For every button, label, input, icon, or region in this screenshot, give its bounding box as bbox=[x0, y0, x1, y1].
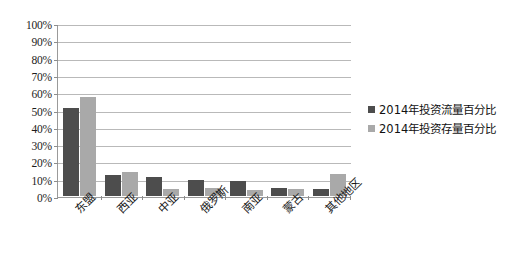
bar bbox=[146, 177, 162, 196]
legend-item-label: 2014年投资流量百分比 bbox=[379, 101, 496, 117]
x-axis-label-cell: 蒙古 bbox=[267, 199, 309, 255]
bar-series-container bbox=[59, 25, 350, 196]
y-axis-tick bbox=[54, 60, 58, 61]
legend-item: 2014年投资流量百分比 bbox=[368, 101, 496, 117]
plot-area: 0%10%20%30%40%50%60%70%80%90%100% bbox=[57, 25, 350, 198]
y-axis-tick-label: 20% bbox=[32, 157, 52, 169]
bar-group bbox=[101, 25, 143, 196]
bar bbox=[105, 175, 121, 196]
y-axis-tick-label: 80% bbox=[32, 54, 52, 66]
y-axis-tick bbox=[54, 181, 58, 182]
bar-group bbox=[267, 25, 309, 196]
y-axis-tick-label: 0% bbox=[37, 192, 52, 204]
bar-group bbox=[225, 25, 267, 196]
y-axis-tick bbox=[54, 77, 58, 78]
x-axis-label-cell: 其他地区 bbox=[308, 199, 350, 255]
y-axis-tick bbox=[54, 42, 58, 43]
x-axis-label-cell: 东盟 bbox=[58, 199, 100, 255]
bar bbox=[80, 97, 96, 196]
x-axis-labels: 东盟西亚中亚俄罗斯南亚蒙古其他地区 bbox=[58, 199, 350, 255]
y-axis-tick-label: 100% bbox=[26, 19, 52, 31]
y-axis-tick-label: 10% bbox=[32, 175, 52, 187]
y-axis-tick-label: 90% bbox=[32, 36, 52, 48]
legend-swatch-icon bbox=[368, 125, 375, 132]
x-axis-label-cell: 南亚 bbox=[225, 199, 267, 255]
bar-group bbox=[184, 25, 226, 196]
y-axis-tick-label: 70% bbox=[32, 71, 52, 83]
y-axis-tick-label: 60% bbox=[32, 88, 52, 100]
y-axis-tick bbox=[54, 129, 58, 130]
bar bbox=[230, 181, 246, 196]
bar-group bbox=[308, 25, 350, 196]
y-axis-tick-label: 30% bbox=[32, 140, 52, 152]
y-axis-tick bbox=[54, 25, 58, 26]
x-axis-label-cell: 中亚 bbox=[141, 199, 183, 255]
y-axis-tick bbox=[54, 146, 58, 147]
bar bbox=[188, 180, 204, 196]
bar-group bbox=[142, 25, 184, 196]
bar bbox=[63, 108, 79, 196]
legend-item-label: 2014年投资存量百分比 bbox=[379, 120, 496, 136]
chart-screenshot: 0%10%20%30%40%50%60%70%80%90%100% 东盟西亚中亚… bbox=[0, 0, 515, 257]
y-axis-tick bbox=[54, 163, 58, 164]
y-axis-tick bbox=[54, 112, 58, 113]
y-axis-tick-label: 40% bbox=[32, 123, 52, 135]
y-axis-tick bbox=[54, 94, 58, 95]
y-axis-tick-label: 50% bbox=[32, 106, 52, 118]
legend-swatch-icon bbox=[368, 106, 375, 113]
chart-legend: 2014年投资流量百分比2014年投资存量百分比 bbox=[368, 101, 496, 136]
x-axis-label-cell: 西亚 bbox=[100, 199, 142, 255]
bar bbox=[271, 188, 287, 196]
legend-item: 2014年投资存量百分比 bbox=[368, 120, 496, 136]
bar bbox=[313, 189, 329, 196]
bar-group bbox=[59, 25, 101, 196]
bar-chart: 0%10%20%30%40%50%60%70%80%90%100% 东盟西亚中亚… bbox=[0, 0, 515, 257]
x-axis-label-cell: 俄罗斯 bbox=[183, 199, 225, 255]
